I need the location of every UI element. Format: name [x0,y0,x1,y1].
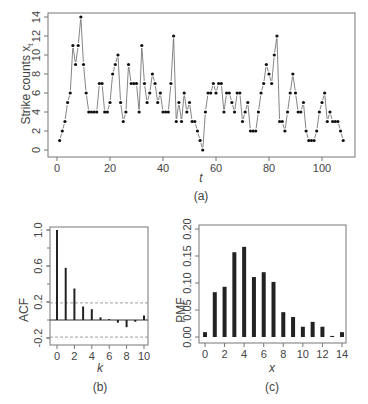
data-point [259,91,262,94]
data-point [305,129,308,132]
data-point [281,120,284,123]
data-point [312,139,315,142]
y-tick-label: 14 [30,11,42,23]
time-series-panel: 02468101214020406080100 [30,11,355,174]
data-point [61,129,64,132]
data-point [323,91,326,94]
data-point [233,110,236,113]
data-point [222,110,225,113]
data-point [100,82,103,85]
plot-frame [48,13,355,157]
data-point [193,120,196,123]
y-tick-label: 1.0 [32,222,44,237]
x-tick-label: 8 [124,350,130,362]
pmf-bar [242,247,246,337]
data-point [241,120,244,123]
data-point [315,129,318,132]
data-point [270,82,273,85]
x-tick-label: 4 [89,350,95,362]
data-point [342,139,345,142]
y-tick-label: 0.20 [181,218,193,239]
c-ylabel: PMF [174,297,188,322]
data-point [140,44,143,47]
data-point [127,63,130,66]
a-caption: (a) [194,189,209,203]
acf-panel: -0.20.20.61.00246810 [32,222,150,362]
x-tick-label: 60 [210,162,222,174]
data-point [167,110,170,113]
x-tick-label: 0 [202,348,208,360]
y-tick-label: 0.6 [32,258,44,273]
data-point [153,82,156,85]
x-tick-label: 80 [263,162,275,174]
c-caption: (c) [265,380,279,394]
x-tick-label: 40 [157,162,169,174]
data-point [180,120,183,123]
pmf-bar [223,287,227,337]
b-caption: (b) [93,380,108,394]
data-point [289,91,292,94]
c-xlabel: x [268,361,276,375]
data-point [214,91,217,94]
data-point [228,91,231,94]
pmf-bar [213,292,217,337]
data-point [212,82,215,85]
data-point [111,72,114,75]
data-point [85,91,88,94]
data-point [262,82,265,85]
x-tick-label: 10 [297,348,309,360]
data-point [294,91,297,94]
y-tick-label: 0 [30,147,42,153]
data-point [79,15,82,18]
x-tick-label: 14 [336,348,348,360]
pmf-bar [311,322,315,337]
data-point [291,72,294,75]
data-point [116,53,119,56]
x-tick-label: 12 [316,348,328,360]
x-tick-label: 4 [241,348,247,360]
data-point [124,110,127,113]
x-tick-label: 2 [222,348,228,360]
data-point [151,72,154,75]
pmf-bar [301,327,305,337]
data-point [230,101,233,104]
data-point [246,101,249,104]
data-point [69,91,72,94]
data-point [106,110,109,113]
data-point [220,82,223,85]
y-tick-label: 0.00 [181,326,193,347]
data-point [286,110,289,113]
data-point [254,129,257,132]
x-tick-label: 10 [138,350,150,362]
data-point [209,91,212,94]
y-tick-label: 2 [30,128,42,134]
data-point [299,110,302,113]
data-point [156,101,159,104]
data-point [77,44,80,47]
data-point [108,101,111,104]
data-point [339,129,342,132]
x-tick-label: 100 [313,162,331,174]
data-point [204,110,207,113]
data-point [138,110,141,113]
pmf-bar [340,332,344,337]
y-tick-label: 0.2 [32,294,44,309]
x-tick-label: 0 [54,162,60,174]
data-point [63,120,66,123]
pmf-bar [320,327,324,337]
data-point [185,110,188,113]
data-point [82,63,85,66]
y-tick-label: -0.2 [32,329,44,348]
data-point [199,139,202,142]
b-ylabel: ACF [17,298,31,322]
pmf-bar [252,277,256,337]
data-point [143,82,146,85]
figure: 02468101214020406080100 Strike counts xt… [0,0,368,404]
data-point [74,63,77,66]
x-tick-label: 6 [261,348,267,360]
data-point [326,120,329,123]
pmf-bar [330,336,334,337]
data-point [265,63,268,66]
data-point [336,120,339,123]
data-point [257,110,260,113]
